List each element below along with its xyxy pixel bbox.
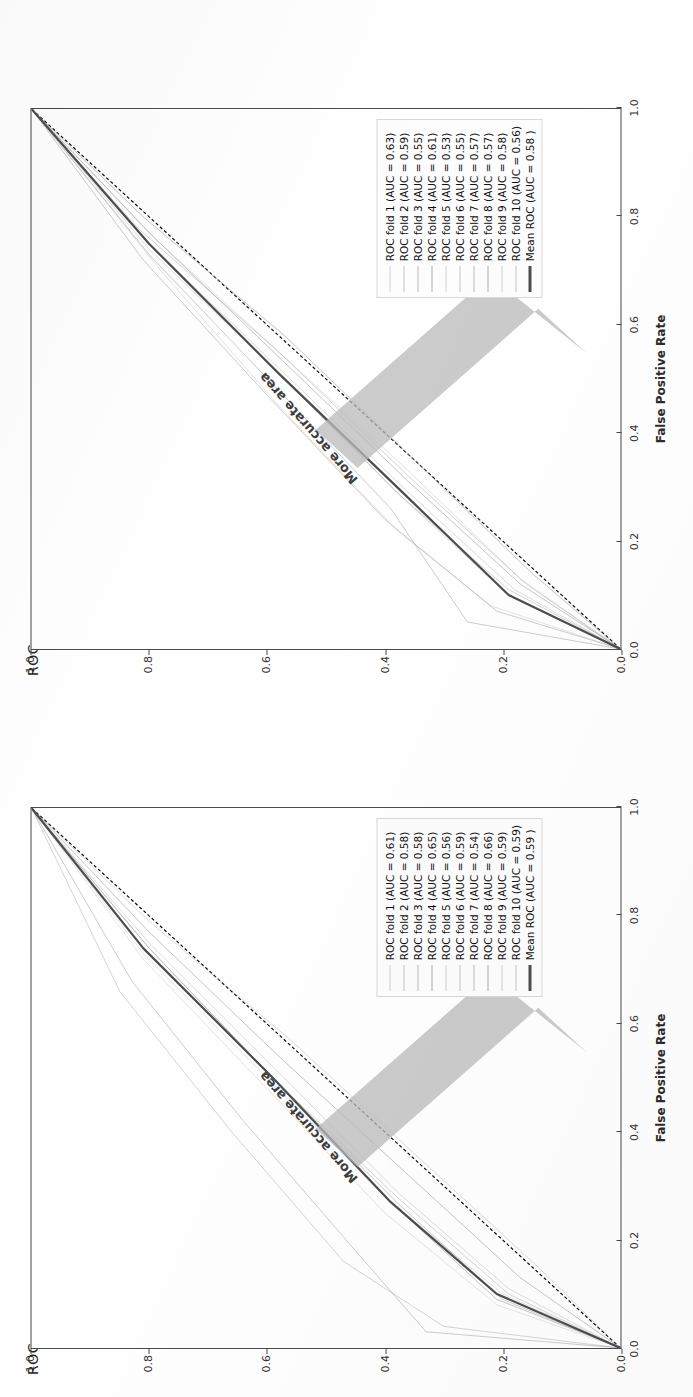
y-tick-label: 0.4 [378,1355,391,1373]
legend-swatch [403,266,404,292]
legend-swatch [389,266,390,292]
legend-item: ROC fold 3 (AUC = 0.55) [410,126,424,292]
legend-label: ROC fold 1 (AUC = 0.61) [382,832,396,961]
legend-swatch [445,266,446,292]
legend-item: ROC fold 7 (AUC = 0.57) [466,126,480,292]
y-tick-label: 0.2 [496,656,509,674]
y-tick-mark [385,1349,386,1354]
legend-label: ROC fold 10 (AUC = 0.59) [508,825,522,960]
legend-item: ROC fold 9 (AUC = 0.59) [494,825,508,991]
legend-swatch [431,266,432,292]
x-tick-label: 0.8 [627,208,640,226]
legend-swatch [515,965,516,991]
y-tick-label: 0.2 [496,1355,509,1373]
x-tick-mark [616,541,621,542]
x-tick-mark [616,1240,621,1241]
legend-swatch [459,266,460,292]
x-tick-label: 0.6 [627,316,640,334]
legend-label: ROC fold 5 (AUC = 0.53) [438,133,452,262]
legend-label: ROC fold 1 (AUC = 0.63) [382,133,396,262]
x-tick-mark [616,914,621,915]
y-tick-mark [30,650,31,655]
y-tick-label: 0.6 [260,1355,273,1373]
x-tick-label: 0.4 [627,1123,640,1141]
legend-label: ROC fold 3 (AUC = 0.55) [410,133,424,262]
y-axis-ticks-bottom: 0.00.20.40.60.81.0 [30,1349,621,1389]
legend-item: ROC fold 2 (AUC = 0.59) [396,126,410,292]
legend-item: ROC fold 2 (AUC = 0.58) [396,825,410,991]
y-tick-mark [148,650,149,655]
legend-label: ROC fold 4 (AUC = 0.61) [424,133,438,262]
legend-swatch [417,965,418,991]
legend-swatch [528,965,531,991]
y-tick-mark [148,1349,149,1354]
x-tick-mark [616,649,621,650]
x-tick-mark [616,107,621,108]
legend-item: ROC fold 8 (AUC = 0.57) [480,126,494,292]
legend-label: ROC fold 9 (AUC = 0.59) [494,832,508,961]
y-tick-label: 0.8 [142,656,155,674]
legend-swatch [528,266,531,292]
y-tick-label: 0.0 [615,1355,628,1373]
y-tick-mark [30,1349,31,1354]
legend-item: ROC fold 3 (AUC = 0.58) [410,825,424,991]
y-tick-mark [503,1349,504,1354]
x-tick-label: 1.0 [627,798,640,816]
legend-item: ROC fold 1 (AUC = 0.63) [382,126,396,292]
x-axis-label-bottom: False Positive Rate [653,807,667,1349]
roc-figure-bottom: ROC True Positive Rate 0.00.20.40.60.81.… [0,699,693,1397]
legend-item: ROC fold 5 (AUC = 0.53) [438,126,452,292]
legend-label: ROC fold 5 (AUC = 0.56) [438,832,452,961]
x-tick-mark [616,432,621,433]
legend-item: ROC fold 4 (AUC = 0.61) [424,126,438,292]
x-tick-mark [616,1023,621,1024]
legend-item: ROC fold 6 (AUC = 0.59) [452,825,466,991]
x-tick-label: 1.0 [627,99,640,117]
y-tick-label: 1.0 [24,656,37,674]
legend-label: Mean ROC (AUC = 0.59 ) [522,829,536,960]
x-axis-label-top: False Positive Rate [653,108,667,650]
legend-item: ROC fold 6 (AUC = 0.55) [452,126,466,292]
y-tick-label: 0.4 [378,656,391,674]
legend-swatch [417,266,418,292]
legend-swatch [501,965,502,991]
legend-label: ROC fold 7 (AUC = 0.54) [466,832,480,961]
legend-swatch [445,965,446,991]
legend-label: ROC fold 6 (AUC = 0.55) [452,133,466,262]
plot-area-top: More accurate area ROC fold 1 (AUC = 0.6… [30,108,621,650]
x-tick-label: 0.0 [627,1340,640,1358]
x-tick-label: 0.8 [627,907,640,925]
x-tick-label: 0.4 [627,424,640,442]
legend-item: ROC fold 8 (AUC = 0.66) [480,825,494,991]
x-tick-mark [616,806,621,807]
roc-plot-top: ROC True Positive Rate 0.00.20.40.60.81.… [0,0,693,698]
y-tick-mark [385,650,386,655]
legend-swatch [403,965,404,991]
y-tick-label: 1.0 [24,1355,37,1373]
x-axis-ticks-top: 0.00.20.40.60.81.0 [621,108,641,650]
legend-label: ROC fold 8 (AUC = 0.57) [480,133,494,262]
y-tick-mark [266,1349,267,1354]
y-tick-label: 0.0 [615,656,628,674]
legend-item: Mean ROC (AUC = 0.58 ) [522,126,536,292]
legend-item: ROC fold 4 (AUC = 0.65) [424,825,438,991]
y-axis-ticks-top: 0.00.20.40.60.81.0 [30,650,621,690]
legend-swatch [389,965,390,991]
legend-label: ROC fold 2 (AUC = 0.58) [396,832,410,961]
x-tick-mark [616,1348,621,1349]
legend-label: ROC fold 9 (AUC = 0.58) [494,133,508,262]
y-tick-mark [503,650,504,655]
legend-item: ROC fold 10 (AUC = 0.56) [508,126,522,292]
legend-label: Mean ROC (AUC = 0.58 ) [522,130,536,261]
y-tick-mark [621,650,622,655]
x-tick-label: 0.2 [627,533,640,551]
legend-swatch [487,965,488,991]
legend-label: ROC fold 7 (AUC = 0.57) [466,133,480,262]
y-tick-mark [266,650,267,655]
legend-label: ROC fold 2 (AUC = 0.59) [396,133,410,262]
legend-label: ROC fold 10 (AUC = 0.56) [508,126,522,261]
y-tick-mark [621,1349,622,1354]
legend-swatch [473,965,474,991]
legend-item: Mean ROC (AUC = 0.59 ) [522,825,536,991]
legend-bottom: ROC fold 1 (AUC = 0.61)ROC fold 2 (AUC =… [376,818,542,997]
